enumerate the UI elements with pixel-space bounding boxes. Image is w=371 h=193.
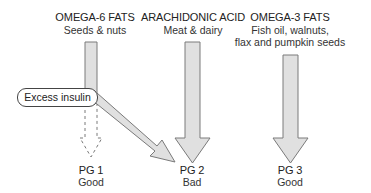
outcome-quality: Bad <box>162 176 222 188</box>
excess-insulin-label: Excess insulin <box>17 88 98 107</box>
outcome-pg1: PG 1 Good <box>61 164 121 188</box>
omega6-arrow <box>85 42 175 162</box>
source-omega3: OMEGA-3 FATS Fish oil, walnuts, flax and… <box>230 11 350 48</box>
source-title: OMEGA-3 FATS <box>230 11 350 23</box>
source-subtitle: flax and pumpkin seeds <box>230 36 350 48</box>
dashed-arrow-pg1 <box>80 104 102 157</box>
omega3-arrow <box>273 55 308 163</box>
outcome-pg3: PG 3 Good <box>260 164 320 188</box>
outcome-quality: Good <box>61 176 121 188</box>
outcome-name: PG 2 <box>162 164 222 176</box>
source-subtitle: Fish oil, walnuts, <box>230 24 350 36</box>
outcome-pg2: PG 2 Bad <box>162 164 222 188</box>
outcome-name: PG 1 <box>61 164 121 176</box>
outcome-quality: Good <box>260 176 320 188</box>
arachidonic-arrow <box>175 42 210 163</box>
outcome-name: PG 3 <box>260 164 320 176</box>
